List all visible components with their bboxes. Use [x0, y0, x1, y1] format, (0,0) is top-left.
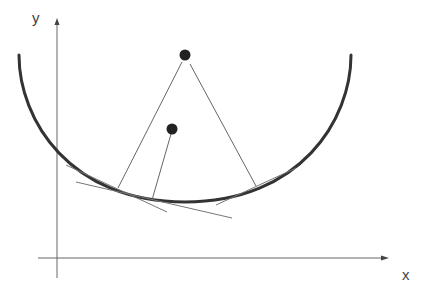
normal-line-lower	[152, 134, 171, 200]
x-axis-arrow-icon	[381, 256, 389, 261]
y-axis-label: y	[32, 9, 40, 26]
lower-point	[167, 124, 178, 135]
curve	[19, 55, 351, 202]
y-axis-arrow-icon	[55, 18, 60, 25]
diagram-canvas	[0, 0, 428, 301]
tangent-line-1	[66, 165, 167, 212]
normal-line-right	[190, 64, 256, 186]
tangent-line-3	[216, 168, 296, 205]
upper-point	[180, 50, 191, 61]
x-axis-label: x	[402, 266, 410, 283]
